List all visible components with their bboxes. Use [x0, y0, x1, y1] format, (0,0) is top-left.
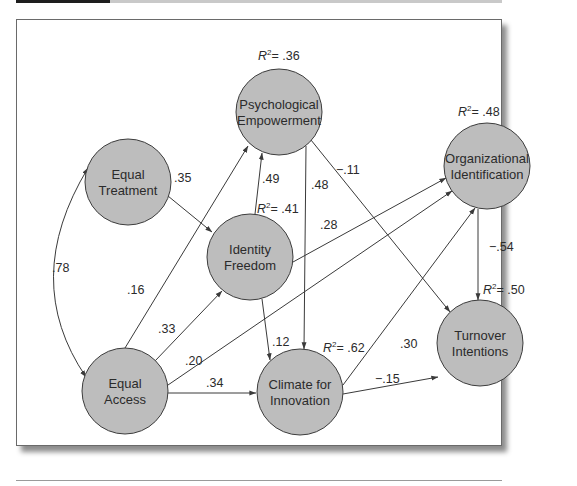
- svg-text:Access: Access: [104, 392, 146, 407]
- svg-text:Intentions: Intentions: [452, 344, 509, 359]
- svg-text:Freedom: Freedom: [224, 258, 276, 273]
- coef-et-ea: .78: [52, 261, 69, 275]
- r2-if: R2= .41: [257, 201, 299, 216]
- svg-text:Empowerment: Empowerment: [237, 113, 321, 128]
- r2-ti: R2= .50: [483, 282, 525, 297]
- coef-ea-ci: .34: [206, 376, 223, 390]
- svg-text:Identification: Identification: [451, 167, 524, 182]
- coef-if-ci: .12: [272, 335, 289, 349]
- svg-text:Climate for: Climate for: [269, 377, 333, 392]
- svg-text:Psychological: Psychological: [239, 97, 319, 112]
- node-turnover-intentions: Turnover Intentions: [437, 300, 523, 386]
- coef-ea-pe: .16: [127, 283, 144, 297]
- edge-et-if: [168, 196, 212, 232]
- coef-ea-if: .33: [158, 322, 175, 336]
- node-equal-access: Equal Access: [82, 348, 168, 434]
- coef-if-pe: .49: [262, 172, 279, 186]
- coef-pe-ti: −.11: [336, 163, 360, 177]
- coef-ci-ti: −.15: [375, 372, 400, 386]
- r2-ci: R2= .62: [323, 340, 365, 355]
- r2-oi: R2= .48: [458, 104, 500, 119]
- node-psychological-empowerment: Psychological Empowerment: [236, 69, 322, 155]
- coef-pe-ci: .48: [311, 178, 328, 192]
- svg-text:Treatment: Treatment: [99, 183, 158, 198]
- r2-pe: R2= .36: [258, 48, 300, 63]
- edge-pe-ci: [304, 146, 306, 349]
- coef-if-oi: .28: [320, 218, 337, 232]
- node-climate-for-innovation: Climate for Innovation: [257, 349, 343, 435]
- svg-text:Innovation: Innovation: [270, 393, 330, 408]
- node-organizational-identification: Organizational Identification: [444, 123, 530, 209]
- svg-text:Identity: Identity: [229, 242, 271, 257]
- svg-text:Turnover: Turnover: [454, 328, 506, 343]
- svg-text:Equal: Equal: [111, 167, 144, 182]
- svg-text:Organizational: Organizational: [445, 151, 529, 166]
- coef-oi-ti: −.54: [489, 240, 514, 254]
- coef-ea-oi: .20: [185, 354, 202, 368]
- coef-et-if: .35: [174, 171, 191, 185]
- svg-text:Equal: Equal: [108, 376, 141, 391]
- path-diagram: .35 .49 .16 .33 .20 .34 .28 .12 .48 −.11…: [0, 0, 577, 486]
- node-equal-treatment: Equal Treatment: [85, 139, 171, 225]
- node-identity-freedom: Identity Freedom: [207, 214, 293, 300]
- coef-ci-oi: .30: [400, 337, 417, 351]
- edge-if-ci: [262, 299, 270, 360]
